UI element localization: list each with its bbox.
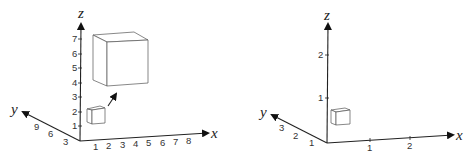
right-x-tick-1: 1	[367, 142, 372, 153]
left-z-tick-4: 4	[72, 77, 77, 88]
left-y-axis-label: y	[9, 101, 18, 117]
right-x-tick-2: 2	[407, 140, 412, 151]
left-z-tick-7: 7	[72, 33, 77, 44]
left-coordinate-system: z 1 2 3 4 5 6 7 x 1 2 3 4 5 6 7	[9, 5, 218, 152]
left-small-cube	[87, 106, 105, 124]
right-y-tick-3: 3	[279, 122, 284, 133]
left-x-tick-1: 1	[93, 141, 98, 152]
left-y-tick-9: 9	[34, 121, 39, 132]
right-z-axis	[327, 24, 328, 143]
left-x-axis-label: x	[210, 125, 218, 141]
left-z-tick-6: 6	[72, 48, 77, 59]
right-y-ticks: 1 2 3	[279, 122, 314, 148]
left-x-tick-7: 7	[173, 136, 178, 147]
diagram-canvas: z 1 2 3 4 5 6 7 x 1 2 3 4 5 6 7	[0, 0, 476, 157]
right-y-tick-1: 1	[309, 137, 314, 148]
left-z-tick-1: 1	[72, 120, 77, 131]
left-z-tick-5: 5	[72, 62, 77, 73]
left-y-tick-3: 3	[63, 136, 68, 147]
right-z-tick-1: 1	[318, 92, 323, 103]
right-y-axis-label: y	[258, 104, 267, 120]
right-x-axis	[327, 135, 453, 143]
left-z-tick-2: 2	[72, 106, 77, 117]
right-z-tick-2: 2	[318, 49, 323, 60]
right-x-axis-label: x	[455, 127, 463, 143]
left-y-ticks: 3 6 9	[34, 121, 68, 147]
left-z-tick-3: 3	[72, 91, 77, 102]
left-x-tick-5: 5	[146, 137, 151, 148]
scaling-arrow	[108, 94, 116, 106]
right-y-tick-2: 2	[293, 130, 298, 141]
left-x-tick-4: 4	[133, 138, 138, 149]
left-z-axis-label: z	[77, 5, 84, 21]
left-x-tick-2: 2	[106, 140, 111, 151]
left-y-tick-6: 6	[48, 128, 53, 139]
right-small-cube	[331, 108, 350, 125]
left-x-tick-3: 3	[120, 139, 125, 150]
right-z-axis-label: z	[323, 7, 330, 23]
left-x-tick-6: 6	[160, 137, 165, 148]
right-coordinate-system: z 1 2 x 1 2 y 1 2 3	[258, 7, 463, 153]
left-large-cube	[93, 32, 148, 86]
left-x-tick-8: 8	[186, 135, 191, 146]
left-z-axis	[80, 24, 81, 141]
